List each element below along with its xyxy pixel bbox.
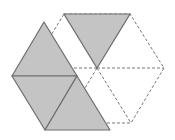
- dashed-spoke: [97, 68, 131, 123]
- shaded-top-triangle: [64, 14, 130, 68]
- shaded-triangle-upper: [12, 22, 77, 76]
- hexagon-net-diagram: [0, 0, 175, 140]
